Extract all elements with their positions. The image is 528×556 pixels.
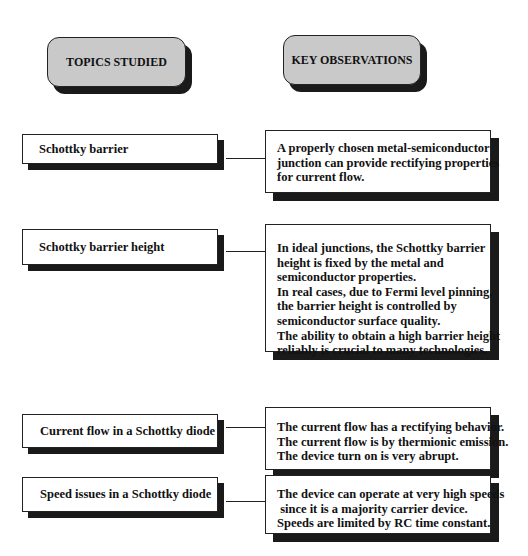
observation-line: semiconductor surface quality. [277,314,480,329]
observation-line: A properly chosen metal-semiconductor [277,141,480,156]
observation-line: height is fixed by the metal and [277,256,480,271]
connector-line [226,501,265,502]
topic-box-schottky-barrier-height: Schottky barrier height [22,229,218,265]
observation-line: reliably is crucial to many technologies… [277,343,480,358]
observation-line: since it is a majority carrier device. [277,502,480,517]
observation-line: the barrier height is controlled by [277,299,480,314]
observation-box-current-flow: The current flow has a rectifying behavi… [265,407,491,470]
observation-line: The current flow has a rectifying behavi… [277,420,480,435]
observation-line: The device can operate at very high spee… [277,487,480,502]
observation-line: semiconductor properties. [277,270,480,285]
observation-box-speed-issues: The device can operate at very high spee… [265,475,491,534]
connector-line [226,158,265,159]
observation-box-schottky-barrier: A properly chosen metal-semiconductor ju… [265,130,491,193]
header-topics-studied: TOPICS STUDIED [47,37,186,87]
observation-line: for current flow. [277,170,480,185]
observation-box-schottky-barrier-height: In ideal junctions, the Schottky barrier… [265,224,491,352]
topic-box-schottky-barrier: Schottky barrier [22,134,218,164]
connector-line [226,251,265,252]
observation-line: The device turn on is very abrupt. [277,449,480,464]
observation-line: The ability to obtain a high barrier hei… [277,329,480,344]
topic-box-current-flow: Current flow in a Schottky diode [22,414,218,448]
topic-box-speed-issues: Speed issues in a Schottky diode [22,477,218,512]
header-key-observations: KEY OBSERVATIONS [283,35,421,85]
observation-line: Speeds are limited by RC time constant. [277,516,480,531]
observation-line: In ideal junctions, the Schottky barrier [277,241,480,256]
observation-line: junction can provide rectifying properti… [277,156,480,171]
observation-line: The current flow is by thermionic emissi… [277,435,480,450]
connector-line [226,427,265,428]
observation-line: In real cases, due to Fermi level pinnin… [277,285,480,300]
